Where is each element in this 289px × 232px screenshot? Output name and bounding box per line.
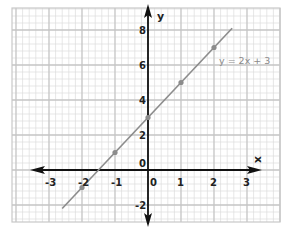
major-grid [12, 8, 280, 222]
y-tick-label: 2 [139, 130, 146, 141]
x-axis-label: x [252, 156, 265, 163]
data-point [112, 150, 117, 155]
y-tick-label: -2 [135, 200, 146, 211]
data-point [145, 115, 150, 120]
x-tick-label: 2 [210, 177, 217, 188]
x-tick-label: 3 [243, 177, 250, 188]
x-tick-label: -1 [111, 177, 122, 188]
data-point [211, 45, 216, 50]
y-tick-label: 8 [139, 25, 146, 36]
grid-frame [12, 8, 280, 222]
y-tick-labels: 86420-2 [135, 25, 146, 211]
equation-label: y = 2x + 3 [219, 55, 270, 66]
coordinate-graph: -3-2-10123 86420-2 y x y = 2x + 3 [0, 0, 289, 232]
x-tick-label: 1 [177, 177, 184, 188]
x-tick-label: -2 [78, 177, 89, 188]
minor-grid [12, 8, 280, 222]
data-point [178, 80, 183, 85]
y-tick-label: 4 [139, 95, 146, 106]
y-tick-label: 0 [139, 158, 146, 169]
x-tick-label: 0 [150, 177, 157, 188]
y-tick-label: 6 [139, 60, 146, 71]
x-tick-label: -3 [45, 177, 56, 188]
y-axis-label: y [157, 10, 164, 23]
